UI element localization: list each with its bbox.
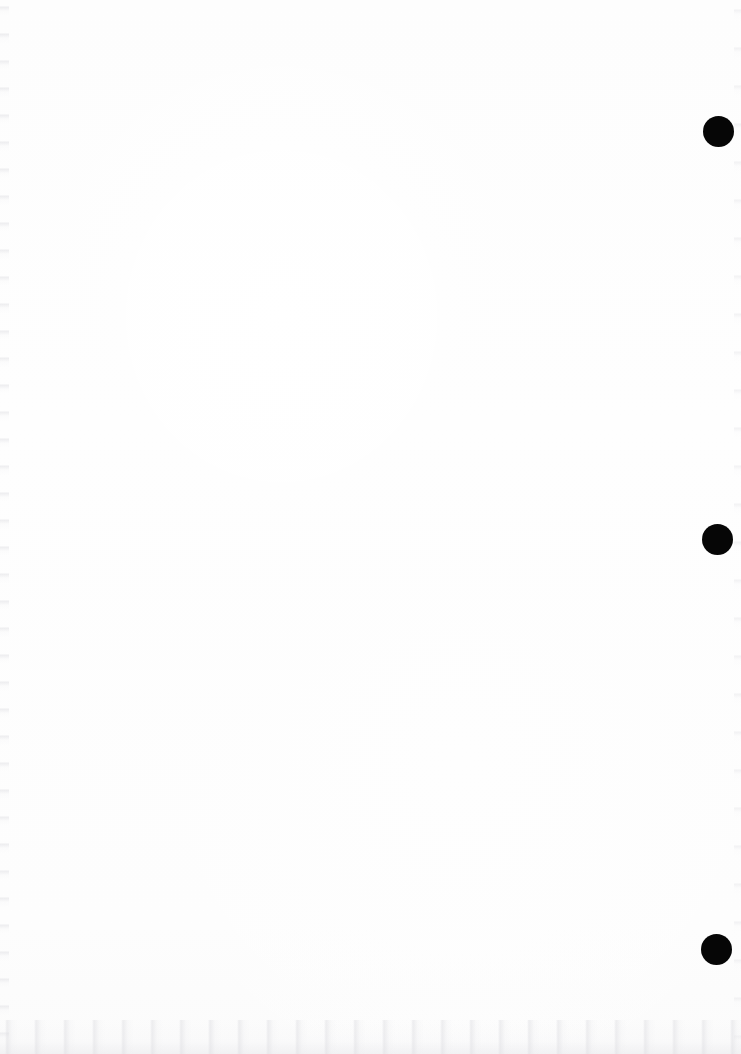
scanned-page [0,0,741,1054]
margin-dot-bottom [701,934,732,965]
bottom-edge-scan-artifact [0,1020,741,1054]
paper-background [0,0,741,1054]
margin-dot-middle [702,524,733,555]
right-edge-scan-artifact [734,0,741,1054]
margin-dot-top [703,116,734,147]
left-edge-scan-artifact [0,0,9,1054]
